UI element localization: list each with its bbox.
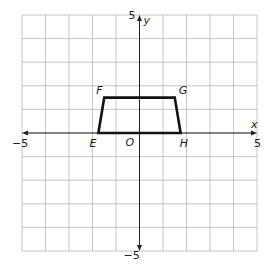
vertex-label-f: F: [96, 84, 103, 97]
vertex-label-h: H: [180, 137, 188, 150]
coordinate-plane: x y −5 5 5 −5 O EFGH: [0, 0, 267, 265]
x-axis-arrow-right-icon: [251, 131, 257, 136]
y-axis-label: y: [143, 14, 151, 27]
y-max-tick-label: 5: [129, 9, 136, 22]
labels: x y −5 5 5 −5 O: [12, 9, 261, 262]
x-axis-label: x: [250, 118, 258, 131]
vertex-label-g: G: [179, 84, 188, 97]
vertex-labels: EFGH: [89, 84, 188, 150]
origin-label: O: [126, 136, 135, 149]
x-min-tick-label: −5: [12, 137, 28, 150]
x-axis-arrow-left-icon: [22, 131, 28, 136]
vertex-label-e: E: [89, 137, 96, 150]
x-max-tick-label: 5: [254, 137, 261, 150]
y-min-tick-label: −5: [124, 249, 140, 262]
y-axis-arrow-up-icon: [137, 15, 142, 21]
